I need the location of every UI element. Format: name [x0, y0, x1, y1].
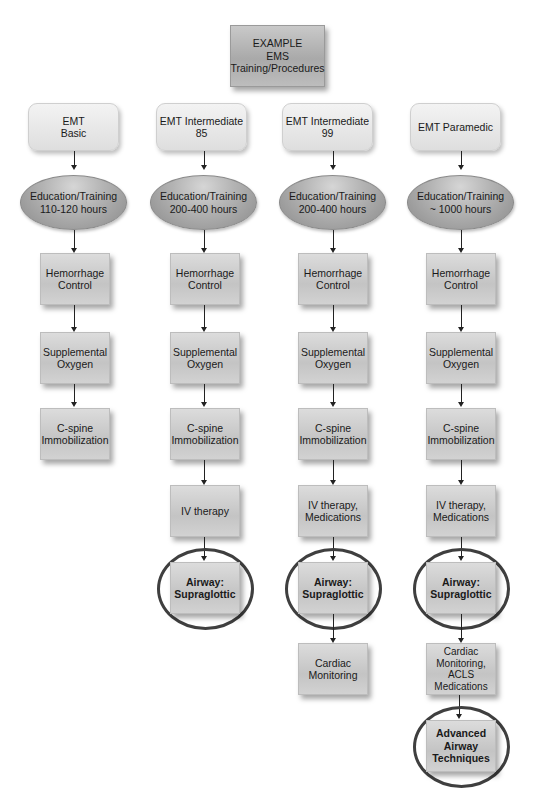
step-c-spine: C-spine Immobilization	[426, 408, 496, 460]
step-c-spine: C-spine Immobilization	[170, 408, 240, 460]
step-label: Hemorrhage Control	[432, 267, 490, 292]
level-emt-basic: EMT Basic	[28, 103, 119, 151]
step-cardiac-monitoring: Cardiac Monitoring	[298, 643, 368, 695]
level-emt-intermediate-85: EMT Intermediate 85	[156, 103, 247, 151]
level-emt-intermediate-99: EMT Intermediate 99	[282, 103, 373, 151]
step-c-spine: C-spine Immobilization	[298, 408, 368, 460]
connector	[333, 230, 334, 248]
step-label: Supplemental Oxygen	[429, 346, 493, 371]
connector	[74, 151, 75, 165]
step-advanced-airway: Advanced Airway Techniques	[426, 720, 496, 772]
step-label: Hemorrhage Control	[46, 267, 104, 292]
education-emt-basic: Education/Training 110-120 hours	[20, 175, 127, 230]
connector	[461, 151, 462, 165]
root-label: EXAMPLE EMS Training/Procedures	[230, 37, 324, 75]
connector	[461, 230, 462, 248]
step-hemorrhage-control: Hemorrhage Control	[426, 253, 496, 305]
connector	[333, 460, 334, 481]
level-label: EMT Intermediate 85	[160, 115, 243, 140]
connector	[204, 384, 205, 404]
step-label: Cardiac Monitoring, ACLS Medications	[434, 646, 487, 692]
connector	[461, 460, 462, 481]
connector	[333, 151, 334, 165]
step-label: Supplemental Oxygen	[173, 346, 237, 371]
arrow-icon	[330, 165, 336, 170]
step-label: Airway: Supraglottic	[174, 576, 235, 601]
education-label: Education/Training 200-400 hours	[160, 190, 247, 215]
education-emt-intermediate-99: Education/Training 200-400 hours	[279, 175, 386, 230]
step-label: C-spine Immobilization	[427, 422, 494, 447]
education-emt-paramedic: Education/Training ~ 1000 hours	[407, 175, 514, 230]
step-label: Advanced Airway Techniques	[432, 727, 490, 765]
step-airway-supraglottic: Airway: Supraglottic	[426, 562, 496, 614]
root-node: EXAMPLE EMS Training/Procedures	[230, 25, 325, 87]
step-label: IV therapy, Medications	[305, 499, 361, 524]
arrow-icon	[458, 165, 464, 170]
education-label: Education/Training 110-120 hours	[30, 190, 117, 215]
step-airway-supraglottic: Airway: Supraglottic	[298, 562, 368, 614]
connector	[333, 384, 334, 404]
step-cardiac-monitoring-acls: Cardiac Monitoring, ACLS Medications	[426, 643, 496, 695]
connector	[74, 305, 75, 329]
step-supplemental-oxygen: Supplemental Oxygen	[298, 332, 368, 384]
step-label: Cardiac Monitoring	[308, 657, 357, 682]
step-label: C-spine Immobilization	[41, 422, 108, 447]
step-hemorrhage-control: Hemorrhage Control	[40, 253, 110, 305]
step-label: C-spine Immobilization	[171, 422, 238, 447]
arrow-icon	[71, 402, 77, 407]
step-supplemental-oxygen: Supplemental Oxygen	[170, 332, 240, 384]
step-label: Hemorrhage Control	[176, 267, 234, 292]
connector	[74, 384, 75, 404]
level-label: EMT Intermediate 99	[286, 115, 369, 140]
step-label: Hemorrhage Control	[304, 267, 362, 292]
connector	[204, 305, 205, 329]
step-iv-therapy-medications: IV therapy, Medications	[298, 485, 368, 537]
step-label: C-spine Immobilization	[299, 422, 366, 447]
arrow-icon	[201, 402, 207, 407]
education-label: Education/Training 200-400 hours	[289, 190, 376, 215]
connector	[461, 384, 462, 404]
connector	[333, 614, 334, 640]
step-supplemental-oxygen: Supplemental Oxygen	[40, 332, 110, 384]
connector	[333, 305, 334, 329]
step-iv-therapy-medications: IV therapy, Medications	[426, 485, 496, 537]
connector	[204, 230, 205, 248]
step-hemorrhage-control: Hemorrhage Control	[170, 253, 240, 305]
arrow-icon	[330, 402, 336, 407]
arrow-icon	[458, 402, 464, 407]
connector	[461, 614, 462, 640]
step-iv-therapy: IV therapy	[170, 485, 240, 537]
step-hemorrhage-control: Hemorrhage Control	[298, 253, 368, 305]
step-label: Supplemental Oxygen	[301, 346, 365, 371]
education-emt-intermediate-85: Education/Training 200-400 hours	[150, 175, 257, 230]
connector	[204, 151, 205, 165]
level-label: EMT Paramedic	[418, 121, 493, 134]
level-emt-paramedic: EMT Paramedic	[410, 103, 501, 151]
step-label: Airway: Supraglottic	[302, 576, 363, 601]
step-label: IV therapy	[181, 505, 229, 518]
step-label: Airway: Supraglottic	[430, 576, 491, 601]
connector	[74, 230, 75, 248]
step-c-spine: C-spine Immobilization	[40, 408, 110, 460]
arrow-icon	[71, 165, 77, 170]
level-label: EMT Basic	[61, 115, 87, 140]
connector	[461, 305, 462, 329]
step-airway-supraglottic: Airway: Supraglottic	[170, 562, 240, 614]
connector	[204, 460, 205, 481]
arrow-icon	[201, 165, 207, 170]
step-label: IV therapy, Medications	[433, 499, 489, 524]
step-label: Supplemental Oxygen	[43, 346, 107, 371]
step-supplemental-oxygen: Supplemental Oxygen	[426, 332, 496, 384]
education-label: Education/Training ~ 1000 hours	[417, 190, 504, 215]
